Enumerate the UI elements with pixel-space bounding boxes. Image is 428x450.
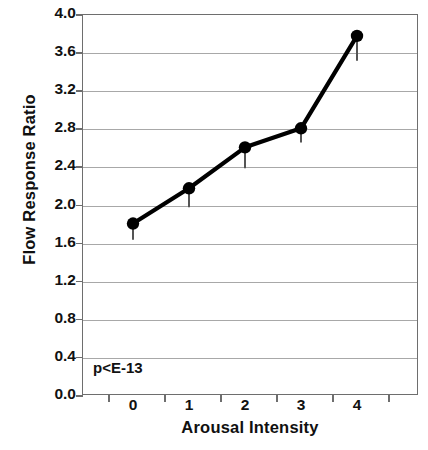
y-axis-tick-label: 0.4 <box>16 347 76 365</box>
x-axis-tick-label: 0 <box>113 396 153 414</box>
y-axis-tick-label: 4.0 <box>16 4 76 22</box>
data-point-marker <box>351 30 363 42</box>
x-axis-tick-mark <box>388 395 390 402</box>
y-axis-tick-label: 1.6 <box>16 233 76 251</box>
data-point-marker <box>183 182 195 194</box>
y-axis-tick-label: 3.6 <box>16 42 76 60</box>
y-axis-title: Flow Response Ratio <box>20 65 39 295</box>
x-axis-tick-mark <box>108 395 110 402</box>
x-axis-tick-label: 1 <box>169 396 209 414</box>
chart-figure: Flow Response Ratio Arousal Intensity 0.… <box>0 0 428 450</box>
x-axis-tick-mark <box>164 395 166 402</box>
y-axis-tick-label: 1.2 <box>16 271 76 289</box>
x-axis-title: Arousal Intensity <box>82 418 418 437</box>
data-point-marker <box>295 122 307 134</box>
data-layer <box>82 14 418 395</box>
series-line <box>133 36 357 224</box>
y-axis-tick-label: 0.0 <box>16 385 76 403</box>
y-axis-tick-label: 2.0 <box>16 195 76 213</box>
x-axis-tick-label: 3 <box>281 396 321 414</box>
y-axis-tick-mark <box>76 395 83 397</box>
y-axis-tick-label: 2.4 <box>16 156 76 174</box>
y-axis-tick-label: 3.2 <box>16 80 76 98</box>
y-axis-tick-label: 2.8 <box>16 118 76 136</box>
p-value-annotation: p<E-13 <box>93 359 143 376</box>
x-axis-tick-label: 2 <box>225 396 265 414</box>
x-axis-tick-mark <box>220 395 222 402</box>
y-axis-tick-label: 0.8 <box>16 309 76 327</box>
x-axis-tick-mark <box>332 395 334 402</box>
data-point-marker <box>127 217 139 229</box>
x-axis-tick-mark <box>276 395 278 402</box>
data-point-marker <box>239 141 251 153</box>
x-axis-tick-label: 4 <box>337 396 377 414</box>
series-svg <box>82 14 418 395</box>
